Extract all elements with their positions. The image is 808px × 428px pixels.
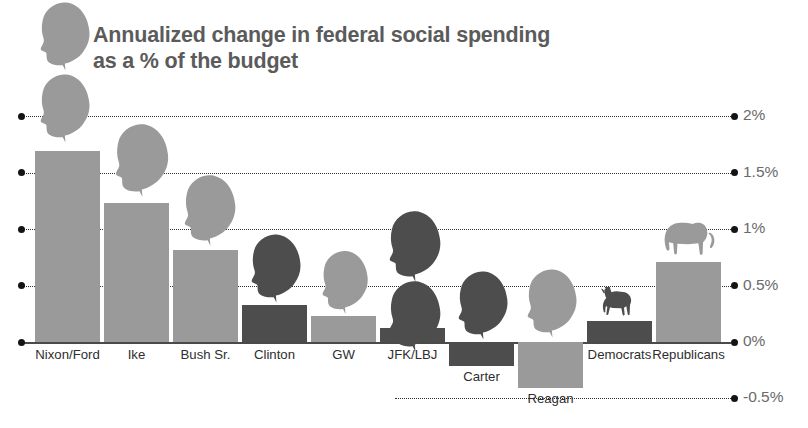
axis-tick-dot: [731, 339, 738, 346]
head-icon-jfk-lbj: [388, 210, 444, 282]
title-line-2: as a % of the budget: [93, 48, 693, 74]
gridline-left-dot: [18, 226, 25, 233]
axis-label-1%: 1%: [743, 219, 765, 237]
head-icon-nixon-ford: [39, 73, 93, 143]
gridline-2: [22, 116, 731, 117]
head-icon-secondary-0: [388, 280, 444, 352]
chart-canvas: Annualized change in federal social spen…: [0, 0, 808, 428]
head-icon-clinton: [250, 233, 304, 303]
axis-tick-dot: [731, 169, 738, 176]
category-label-republicans: Republicans: [642, 347, 735, 362]
axis-label-0.5%: 0.5%: [743, 276, 778, 294]
axis-label-1.5%: 1.5%: [743, 163, 778, 181]
bar-gw[interactable]: [311, 316, 376, 342]
page-title: Annualized change in federal social spen…: [93, 22, 693, 74]
zero-baseline: [22, 342, 731, 344]
axis-tick-dot: [731, 226, 738, 233]
axis-tick-dot: [731, 282, 738, 289]
axis-label-2%: 2%: [743, 106, 765, 124]
bar-ike[interactable]: [104, 203, 169, 342]
bar-republicans[interactable]: [656, 262, 721, 342]
bar-bush-sr[interactable]: [173, 250, 238, 342]
axis-label--0.5%: -0.5%: [743, 388, 784, 406]
bar-clinton[interactable]: [242, 305, 307, 342]
axis-tick-dot: [731, 395, 738, 402]
gridline-left-dot: [18, 113, 25, 120]
gridline-left-dot: [18, 282, 25, 289]
elephant-icon-republicans: [662, 220, 718, 258]
category-label-reagan: Reagan: [504, 391, 597, 406]
category-label-carter: Carter: [435, 369, 528, 384]
axis-label-0%: 0%: [743, 332, 765, 350]
zero-left-dot: [18, 339, 25, 346]
head-icon-ike: [114, 123, 172, 197]
head-icon-carter: [457, 270, 511, 340]
donkey-icon-democrats: [601, 287, 641, 317]
head-icon-bush-sr: [183, 174, 239, 246]
bar-democrats[interactable]: [587, 321, 652, 342]
axis-tick-dot: [731, 113, 738, 120]
head-icon-gw: [321, 250, 371, 314]
head-icon-secondary-1: [39, 1, 93, 71]
head-icon-reagan: [526, 268, 580, 338]
bar-nixon-ford[interactable]: [35, 151, 100, 342]
title-line-1: Annualized change in federal social spen…: [93, 23, 550, 47]
gridline-left-dot: [18, 169, 25, 176]
bar-carter[interactable]: [449, 342, 514, 366]
